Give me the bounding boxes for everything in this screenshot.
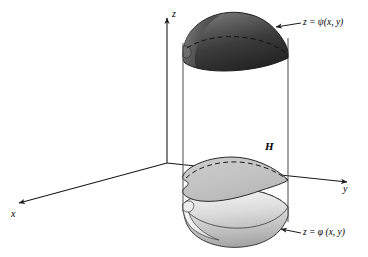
region-label-H: H [265,141,274,152]
upper-surface-body [183,12,288,71]
z-axis-label: z [172,9,176,19]
lower-surface-notch [183,201,194,212]
y-axis-label: y [343,184,347,194]
x-axis-label: x [11,209,15,219]
mid-region-fill [183,157,288,201]
figure-canvas: z y x H z = ψ(x, y) z = φ (x, y) [0,0,368,257]
lower-surface-callout-label: z = φ (x, y) [303,228,345,238]
upper-surface-callout-arrow [276,23,301,27]
x-axis-line [19,163,167,203]
lower-surface-callout-arrow [281,229,301,233]
upper-surface-callout-label: z = ψ(x, y) [303,18,343,28]
upper-surface-group [183,12,288,71]
mid-region-group [183,157,288,201]
figure-svg [0,0,368,257]
